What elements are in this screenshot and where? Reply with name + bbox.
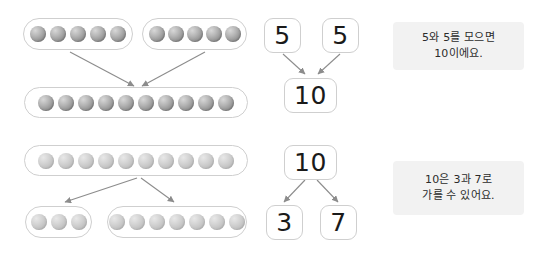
dot xyxy=(78,153,94,169)
dot xyxy=(58,95,74,111)
note-composition-line2: 10이에요. xyxy=(434,46,483,62)
dot xyxy=(51,214,67,230)
dot-group-ten-total xyxy=(38,95,234,111)
dot xyxy=(209,214,225,230)
dot xyxy=(98,95,114,111)
number-box-addend-right: 5 xyxy=(322,18,359,53)
dot xyxy=(38,95,54,111)
note-decomposition-line1: 10은 3과 7로 xyxy=(425,172,492,188)
dot xyxy=(198,153,214,169)
arrow-five-right-to-ten xyxy=(318,54,340,74)
dot xyxy=(189,214,205,230)
dot xyxy=(129,214,145,230)
dot-tray-part-left xyxy=(25,206,92,238)
note-decomposition: 10은 3과 7로 가를 수 있어요. xyxy=(393,161,524,215)
dot xyxy=(109,214,125,230)
dot xyxy=(78,95,94,111)
dot xyxy=(118,153,134,169)
number-box-part-left: 3 xyxy=(266,205,303,240)
dot xyxy=(30,26,46,42)
arrow-decompose-left xyxy=(65,178,137,202)
worksheet-canvas: 5 5 10 5와 5를 모으면 10이에요. xyxy=(0,0,542,257)
dot xyxy=(178,95,194,111)
dot xyxy=(149,26,165,42)
note-composition: 5와 5를 모으면 10이에요. xyxy=(393,22,524,70)
dot xyxy=(110,26,126,42)
number-box-part-right: 7 xyxy=(320,205,357,240)
dot xyxy=(50,26,66,42)
dot xyxy=(149,214,165,230)
dot xyxy=(158,95,174,111)
number-box-decomposition-total: 10 xyxy=(284,145,337,180)
arrow-ten-to-three xyxy=(284,180,305,202)
dot-group-three xyxy=(31,214,87,230)
dot xyxy=(38,153,54,169)
arrow-ten-to-seven xyxy=(317,180,338,202)
dot xyxy=(225,26,241,42)
dot xyxy=(229,214,245,230)
dot xyxy=(90,26,106,42)
dot xyxy=(187,26,203,42)
dot-tray-part-right xyxy=(107,206,247,238)
dot xyxy=(168,26,184,42)
dot xyxy=(138,95,154,111)
dot-group-five-left xyxy=(30,26,126,42)
dot xyxy=(198,95,214,111)
dot-group-seven xyxy=(109,214,245,230)
dot-tray-composition-total xyxy=(24,87,248,118)
dot-tray-addend-left xyxy=(23,18,133,50)
arrow-five-left-to-ten xyxy=(283,54,305,74)
arrow-compose-right xyxy=(142,52,205,86)
arrow-compose-left xyxy=(70,52,134,86)
dot xyxy=(31,214,47,230)
note-decomposition-line2: 가를 수 있어요. xyxy=(422,188,494,204)
dot xyxy=(218,153,234,169)
dot xyxy=(58,153,74,169)
dot xyxy=(71,214,87,230)
number-box-addend-left: 5 xyxy=(264,18,301,53)
dot xyxy=(169,214,185,230)
dot xyxy=(118,95,134,111)
dot-tray-addend-right xyxy=(142,18,247,50)
note-composition-line1: 5와 5를 모으면 xyxy=(422,30,495,46)
dot xyxy=(218,95,234,111)
dot xyxy=(138,153,154,169)
dot-group-five-right xyxy=(149,26,241,42)
arrow-decompose-right xyxy=(141,178,174,202)
number-box-composition-total: 10 xyxy=(284,78,337,113)
dot xyxy=(206,26,222,42)
dot-group-ten-whole xyxy=(38,153,234,169)
dot xyxy=(70,26,86,42)
dot xyxy=(178,153,194,169)
dot-tray-decomposition-total xyxy=(24,145,248,176)
dot xyxy=(98,153,114,169)
dot xyxy=(158,153,174,169)
